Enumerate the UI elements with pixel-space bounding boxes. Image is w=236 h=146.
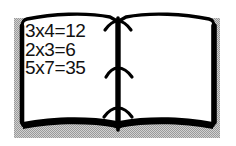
math-line-3: 5x7=35 xyxy=(25,59,117,78)
math-line-1: 3x4=12 xyxy=(25,22,117,41)
left-page-math-text: 3x4=12 2x3=6 5x7=35 xyxy=(25,22,117,78)
book-illustration: 3x4=12 2x3=6 5x7=35 xyxy=(0,0,236,146)
right-page-shape xyxy=(119,14,214,127)
